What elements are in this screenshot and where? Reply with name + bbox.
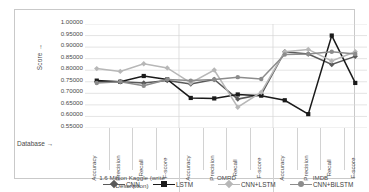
legend-item-cnn-bilstm[interactable]: CNN+BiLSTM <box>290 181 353 188</box>
data-point-marker <box>283 98 287 102</box>
legend-swatch-icon <box>153 181 175 188</box>
legend-swatch-icon <box>103 181 125 188</box>
category-tick-f-score: F-score <box>156 128 180 170</box>
data-point-marker <box>118 69 123 74</box>
data-point-marker <box>212 96 216 100</box>
series-lines <box>85 24 367 128</box>
data-point-marker <box>330 33 334 37</box>
data-point-marker <box>330 50 334 54</box>
category-tick-f-score: F-score <box>250 128 274 170</box>
series-cnn <box>94 49 358 102</box>
data-point-marker <box>306 112 310 116</box>
category-tick-accuracy: Accuracy <box>179 128 203 170</box>
data-point-marker <box>236 75 240 79</box>
data-point-marker <box>236 92 240 96</box>
category-tick-recall: Recall <box>132 128 156 170</box>
legend-item-lstm[interactable]: LSTM <box>153 181 193 188</box>
category-tick-accuracy: Accuracy <box>273 128 297 170</box>
data-point-marker <box>189 78 193 82</box>
series-line <box>97 52 356 86</box>
data-point-marker <box>353 52 357 56</box>
y-tick-label: 0.75000 <box>61 77 83 83</box>
data-point-marker <box>306 52 310 56</box>
legend-label: CNN+LSTM <box>241 181 276 188</box>
y-tick-label: 0.70000 <box>61 88 83 94</box>
legend-label: LSTM <box>176 181 193 188</box>
legend-item-cnn-lstm[interactable]: CNN+LSTM <box>218 181 276 188</box>
data-point-marker <box>165 77 169 81</box>
data-point-marker <box>95 81 99 85</box>
legend-swatch-icon <box>290 181 312 188</box>
legend-swatch-icon <box>218 181 240 188</box>
category-tick-precision: Precision <box>109 128 133 170</box>
chart-container: Score → Database → 1.000000.950000.90000… <box>14 9 355 179</box>
data-point-marker <box>212 77 216 81</box>
category-axis: AccuracyPrecisionRecallF-scoreAccuracyPr… <box>85 128 367 170</box>
legend-item-cnn[interactable]: CNN <box>103 181 140 188</box>
category-tick-accuracy: Accuracy <box>85 128 109 170</box>
data-point-marker <box>118 80 122 84</box>
series-lstm <box>95 33 358 116</box>
data-point-marker <box>283 52 287 56</box>
category-tick-recall: Recall <box>320 128 344 170</box>
legend-label: CNN <box>126 181 140 188</box>
data-point-marker <box>353 81 357 85</box>
chart-legend: CNNLSTMCNN+LSTMCNN+BiLSTM <box>35 177 365 188</box>
category-tick-recall: Recall <box>226 128 250 170</box>
x-axis-title: Database → <box>17 140 53 147</box>
y-tick-label: 0.65000 <box>61 100 83 106</box>
data-point-marker <box>306 47 311 52</box>
data-point-marker <box>189 96 193 100</box>
y-tick-label: 0.80000 <box>61 65 83 71</box>
y-tick-label: 0.95000 <box>61 31 83 37</box>
legend-label: CNN+BiLSTM <box>313 181 353 188</box>
category-tick-precision: Precision <box>297 128 321 170</box>
y-tick-label: 0.55000 <box>61 123 83 129</box>
y-tick-label: 0.85000 <box>61 54 83 60</box>
data-point-marker <box>142 84 146 88</box>
y-axis-tick-labels: 1.000000.950000.900000.850000.800000.750… <box>45 22 83 128</box>
data-point-marker <box>142 74 146 78</box>
y-tick-label: 1.00000 <box>61 19 83 25</box>
y-tick-label: 0.90000 <box>61 42 83 48</box>
category-tick-f-score: F-score <box>344 128 368 170</box>
data-point-marker <box>259 77 263 81</box>
category-tick-precision: Precision <box>203 128 227 170</box>
plot-area <box>85 24 367 128</box>
data-point-marker <box>141 61 146 66</box>
y-tick-label: 0.60000 <box>61 111 83 117</box>
